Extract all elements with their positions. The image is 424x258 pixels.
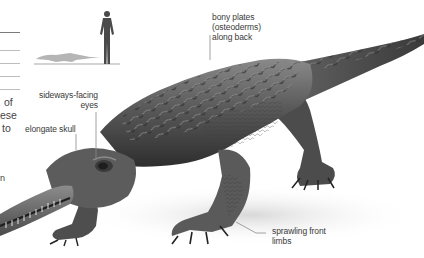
label-sideways-eyes: sideways-facing eyes — [38, 90, 98, 110]
label-bony-plates: bony plates (osteoderms) along back — [212, 12, 261, 42]
label-elongate-skull: elongate skull — [25, 124, 76, 134]
crocodilian-diagram: of ese to n — [0, 0, 424, 258]
scale-comparison — [34, 53, 120, 64]
label-sprawling-limbs: sprawling front limbs — [272, 226, 326, 246]
ground-shadow — [80, 185, 420, 245]
human-silhouette-icon — [100, 11, 114, 64]
